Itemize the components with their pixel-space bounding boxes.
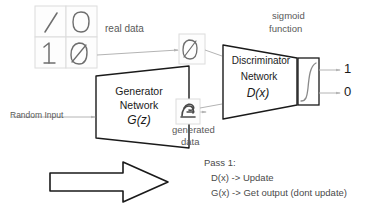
pass-note-line2: D(x) -> Update: [211, 171, 274, 184]
connector-generated-data-to-discriminator: [200, 104, 222, 108]
connector-line-real-data: [97, 50, 178, 55]
connector-arrowhead-output-one: [336, 69, 341, 71]
pass-note-line1: Pass 1:: [204, 156, 236, 169]
connector-line-sample-discriminator: [205, 50, 222, 56]
generator-block-line1: Generator: [96, 85, 182, 98]
real-data-label: real data: [105, 23, 144, 34]
real-sample-cell-0: [35, 6, 66, 37]
discriminator-block-formula: D(x): [222, 86, 294, 101]
connector-arrowhead-real-data: [174, 49, 179, 52]
connector-arrowhead-generated-data: [202, 111, 207, 113]
discriminator-block-line1: Discriminator: [222, 55, 300, 67]
connector-arrowhead-output-zero: [336, 92, 341, 94]
connector-line-generated-discriminator: [200, 104, 222, 108]
generator-block-line2: Network: [96, 99, 182, 112]
discriminator-input-sample: [179, 34, 205, 64]
diagram-vector-layer: [0, 0, 376, 210]
output-label-one: 1: [344, 62, 351, 77]
sigmoid-function-label-line1: sigmoid: [272, 11, 305, 22]
random-input-label: Random Input: [10, 111, 63, 121]
connector-real-data-to-discriminator: [97, 49, 179, 55]
discriminator-block-line2: Network: [222, 71, 296, 83]
sigmoid-function-box: [298, 58, 319, 105]
pass-direction-arrow: [50, 162, 168, 202]
sigmoid-function-label-line2: function: [269, 24, 302, 35]
connector-sample-to-discriminator: [205, 50, 222, 56]
pass-note-line3: G(x) -> Get output (dont update): [211, 186, 347, 199]
generator-block-formula: G(z): [96, 113, 182, 128]
gan-diagram-canvas: real data sigmoid function Random Input …: [0, 0, 376, 210]
output-label-zero: 0: [344, 85, 351, 100]
connector-sigmoid-outputs: [319, 69, 341, 94]
real-data-sample-grid: [35, 6, 97, 68]
generated-data-label-line2: data: [181, 137, 200, 148]
